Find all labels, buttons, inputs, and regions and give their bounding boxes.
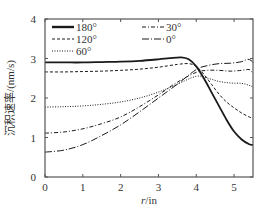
legend-label: 120° — [76, 33, 97, 45]
series-line-3 — [45, 69, 253, 133]
x-tick-label: 1 — [80, 181, 86, 193]
y-tick-label: 4 — [31, 13, 37, 25]
x-axis-label: r/in — [141, 194, 157, 206]
plot-lines — [45, 57, 253, 152]
legend-label: 60° — [76, 45, 91, 57]
line-chart: 012345 01234 r/in 沉积速率/(nm/s) 180°30°120… — [0, 0, 269, 218]
series-line-4 — [45, 59, 253, 152]
series-line-2 — [45, 76, 253, 107]
legend: 180°30°120°0°60° — [52, 21, 181, 57]
x-tick-label: 5 — [231, 181, 237, 193]
y-axis-label: 沉积速率/(nm/s) — [3, 60, 17, 136]
legend-label: 0° — [166, 33, 176, 45]
x-tick-label: 2 — [118, 181, 124, 193]
y-tick-label: 1 — [31, 132, 37, 144]
legend-label: 180° — [76, 21, 97, 33]
y-tick-label: 2 — [31, 92, 37, 104]
x-tick-label: 4 — [194, 181, 200, 193]
y-tick-label: 0 — [31, 171, 37, 183]
legend-label: 30° — [166, 21, 181, 33]
x-tick-label: 3 — [156, 181, 162, 193]
y-tick-label: 3 — [31, 53, 37, 65]
x-tick-label: 0 — [42, 181, 48, 193]
